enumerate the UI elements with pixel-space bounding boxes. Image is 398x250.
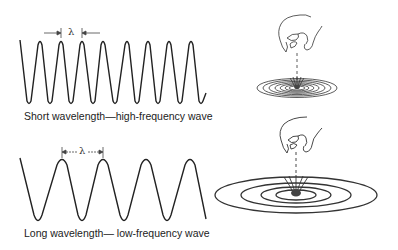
hand-icon: [280, 117, 322, 153]
small-stone-drop-illustration: [257, 15, 337, 98]
wave-diagram: [0, 0, 398, 250]
hand-icon: [279, 15, 322, 52]
long-lambda-label: λ: [79, 145, 85, 156]
large-stone: [291, 190, 301, 197]
short-wavelength-wave: [20, 40, 206, 104]
large-stone-drop-illustration: [215, 117, 377, 213]
long-wavelength-wave: [20, 158, 206, 221]
short-wave-caption: Short wavelength—high-frequency wave: [24, 110, 213, 122]
short-lambda-label: λ: [68, 26, 74, 37]
small-stone: [294, 85, 300, 89]
long-wave-caption: Long wavelength— low-frequency wave: [24, 227, 210, 239]
